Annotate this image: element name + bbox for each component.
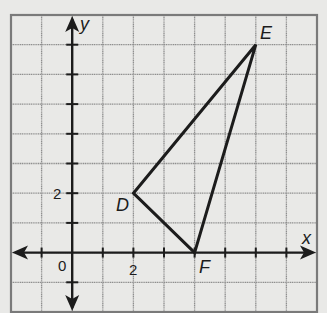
y-tick-label-2: 2 bbox=[53, 186, 61, 201]
origin-label: 0 bbox=[58, 258, 66, 273]
x-tick-label-2: 2 bbox=[129, 262, 137, 277]
point-e-label: E bbox=[260, 24, 272, 42]
y-axis-label: y bbox=[80, 15, 89, 33]
point-f-label: F bbox=[199, 258, 210, 276]
coordinate-plane: y x 0 2 2 D E F bbox=[0, 0, 327, 313]
grid-lines bbox=[11, 15, 317, 312]
point-d-label: D bbox=[116, 196, 129, 214]
x-axis-label: x bbox=[302, 229, 311, 247]
grid-svg bbox=[0, 0, 327, 313]
